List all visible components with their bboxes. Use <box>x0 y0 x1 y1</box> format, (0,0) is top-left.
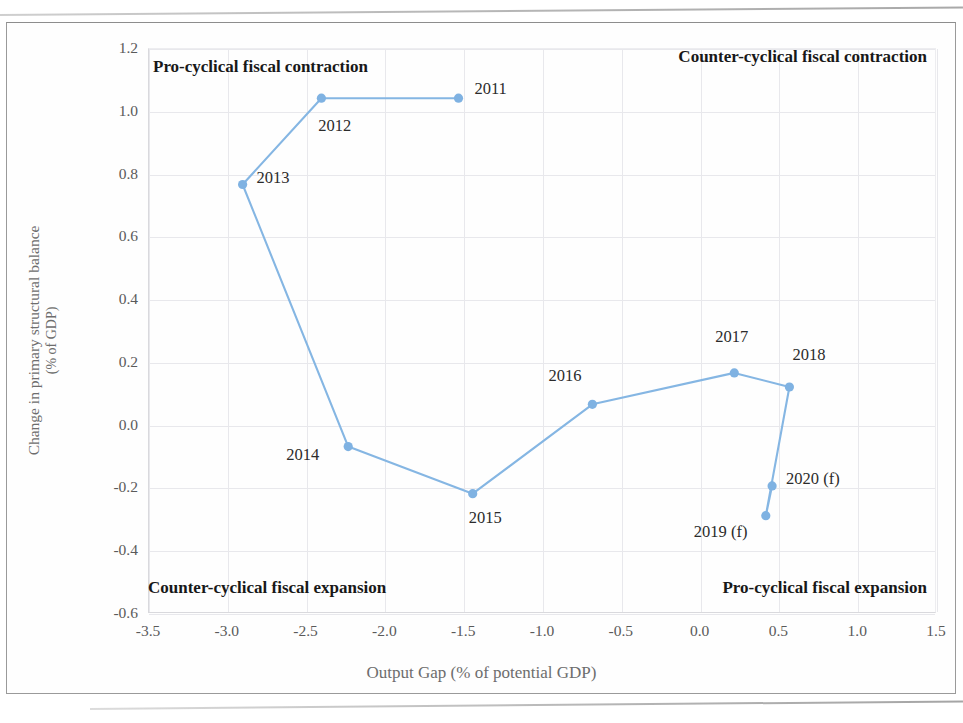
gridline-horizontal <box>149 551 935 552</box>
figure-scatter-fiscal-stance: 1.21.00.80.60.40.20.0-0.2-0.4-0.6 -3.5-3… <box>0 0 963 723</box>
plot-area <box>148 48 936 613</box>
y-tick-label: 0.8 <box>92 165 138 183</box>
gridline-horizontal <box>149 237 935 238</box>
quadrant-label-bottom-left: Counter-cyclical fiscal expansion <box>148 578 386 598</box>
x-tick-label: -1.5 <box>428 622 498 640</box>
data-point-label: 2011 <box>474 79 506 99</box>
y-axis-title-line1: Change in primary structural balance <box>25 226 42 456</box>
x-tick-label: 0.0 <box>665 622 735 640</box>
data-point-label: 2013 <box>257 168 290 188</box>
x-tick-label: 1.5 <box>901 622 963 640</box>
x-tick-label: -3.5 <box>113 622 183 640</box>
y-tick-label: 0.4 <box>92 290 138 308</box>
y-axis-title-line2: (% of GDP) <box>43 190 61 490</box>
x-tick-label: -2.0 <box>349 622 419 640</box>
y-tick-label: 1.2 <box>92 39 138 57</box>
x-tick-label: -1.0 <box>507 622 577 640</box>
x-tick-label: 1.0 <box>822 622 892 640</box>
y-tick-label: 0.2 <box>92 353 138 371</box>
quadrant-label-top-left: Pro-cyclical fiscal contraction <box>153 57 368 77</box>
y-tick-label: -0.2 <box>92 478 138 496</box>
y-tick-label: -0.6 <box>92 604 138 622</box>
data-point-label: 2017 <box>715 327 748 347</box>
y-tick-label: 0.6 <box>92 227 138 245</box>
quadrant-label-bottom-right: Pro-cyclical fiscal expansion <box>722 578 927 598</box>
data-point-label: 2014 <box>286 445 319 465</box>
data-point-label: 2015 <box>469 508 502 528</box>
gridline-vertical <box>779 49 780 612</box>
data-point-label: 2020 (f) <box>786 469 840 489</box>
gridline-horizontal <box>149 426 935 427</box>
data-point-label: 2016 <box>548 366 581 386</box>
gridline-vertical <box>149 49 150 612</box>
x-tick-label: -0.5 <box>586 622 656 640</box>
data-point-label: 2012 <box>318 116 351 136</box>
gridline-vertical <box>937 49 938 612</box>
y-axis-tick-labels: 1.21.00.80.60.40.20.0-0.2-0.4-0.6 <box>86 0 138 723</box>
gridline-horizontal <box>149 614 935 615</box>
y-axis-title: Change in primary structural balance (% … <box>24 190 61 490</box>
y-tick-label: -0.4 <box>92 541 138 559</box>
gridline-horizontal <box>149 112 935 113</box>
gridline-horizontal <box>149 300 935 301</box>
gridline-vertical <box>858 49 859 612</box>
x-tick-label: 0.5 <box>743 622 813 640</box>
y-tick-label: 0.0 <box>92 416 138 434</box>
quadrant-label-top-right: Counter-cyclical fiscal contraction <box>678 47 927 67</box>
gridline-vertical <box>385 49 386 612</box>
y-tick-label: 1.0 <box>92 102 138 120</box>
x-tick-label: -3.0 <box>192 622 262 640</box>
gridline-vertical <box>622 49 623 612</box>
data-point-label: 2019 (f) <box>694 522 748 542</box>
data-point-label: 2018 <box>792 345 825 365</box>
gridline-vertical <box>464 49 465 612</box>
gridline-vertical <box>307 49 308 612</box>
x-axis-tick-labels: -3.5-3.0-2.5-2.0-1.5-1.0-0.50.00.51.01.5 <box>0 622 963 648</box>
gridline-vertical <box>228 49 229 612</box>
gridline-vertical <box>543 49 544 612</box>
x-axis-title: Output Gap (% of potential GDP) <box>0 663 963 683</box>
x-tick-label: -2.5 <box>271 622 341 640</box>
